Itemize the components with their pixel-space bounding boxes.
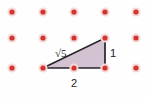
hypotenuse-label: √5 (55, 47, 67, 59)
lattice-dot (131, 33, 140, 42)
vertical-leg-label: 1 (110, 47, 116, 59)
lattice-dot (131, 63, 140, 72)
lattice-dot (69, 33, 78, 42)
lattice-dot (100, 63, 109, 72)
lattice-dot-core (133, 65, 138, 70)
lattice-dot (100, 33, 109, 42)
lattice-dot-core (40, 9, 45, 14)
geometry-figure: √5 1 2 (0, 0, 147, 99)
lattice-dot (69, 63, 78, 72)
lattice-dot (69, 7, 78, 16)
lattice-dot (7, 33, 16, 42)
lattice-dot-core (9, 9, 14, 14)
lattice-dot-core (71, 35, 76, 40)
lattice-dot-core (40, 65, 45, 70)
horizontal-leg-label: 2 (71, 77, 77, 89)
lattice-dot (100, 7, 109, 16)
lattice-dot (38, 7, 47, 16)
lattice-dot-core (9, 35, 14, 40)
lattice-dot (131, 7, 140, 16)
lattice-dot-core (71, 9, 76, 14)
lattice-dot-core (71, 65, 76, 70)
lattice-dot-core (102, 65, 107, 70)
lattice-dot-core (133, 35, 138, 40)
lattice-dot-core (40, 35, 45, 40)
lattice-dot-core (133, 9, 138, 14)
lattice-dot (7, 7, 16, 16)
geometry-canvas: √5 1 2 (0, 0, 147, 99)
lattice-dot-core (102, 35, 107, 40)
lattice-dot-core (102, 9, 107, 14)
lattice-dot (7, 63, 16, 72)
lattice-dot (38, 63, 47, 72)
lattice-dot-core (9, 65, 14, 70)
lattice-dot (38, 33, 47, 42)
